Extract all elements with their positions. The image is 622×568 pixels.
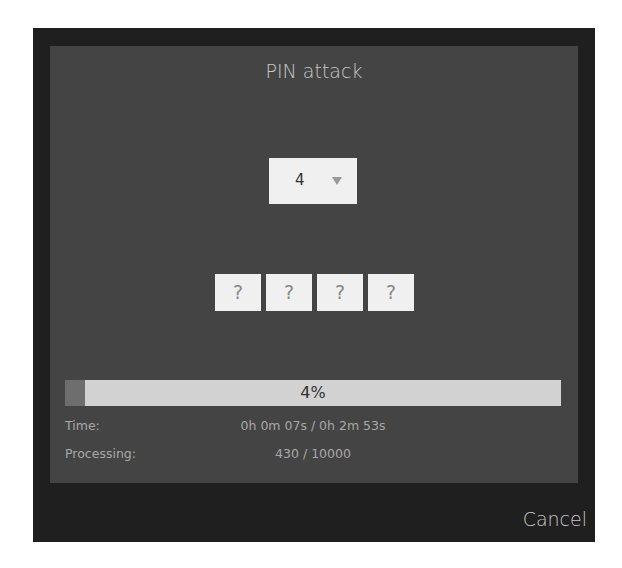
chevron-down-icon (332, 177, 342, 185)
pin-length-select[interactable]: 4 (269, 158, 357, 204)
dialog-title: PIN attack (50, 60, 578, 82)
processing-value: 430 / 10000 (65, 446, 561, 461)
progress-bar: 4% (65, 380, 561, 406)
pin-attack-dialog: PIN attack 4 ? ? ? ? 4% Time: 0h 0m 07s … (33, 28, 595, 542)
pin-digit-3: ? (317, 274, 363, 311)
pin-digit-2: ? (266, 274, 312, 311)
pin-digit-4: ? (368, 274, 414, 311)
cancel-button[interactable]: Cancel (523, 508, 587, 530)
pin-digit-1: ? (215, 274, 261, 311)
pin-length-value: 4 (295, 171, 305, 189)
time-value: 0h 0m 07s / 0h 2m 53s (65, 418, 561, 433)
dialog-content-panel: PIN attack 4 ? ? ? ? 4% Time: 0h 0m 07s … (50, 46, 578, 483)
pin-digit-boxes: ? ? ? ? (215, 274, 414, 311)
progress-percent: 4% (65, 383, 561, 402)
